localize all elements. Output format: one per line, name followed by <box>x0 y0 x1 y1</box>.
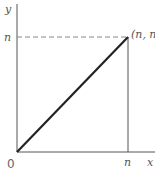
point-label: (n, n <box>131 28 155 41</box>
diagonal-diagram: y n (n, n 0 n x <box>0 0 155 177</box>
x-tick-label-n: n <box>124 156 131 169</box>
diagonal-line <box>17 37 128 152</box>
x-axis-label: x <box>147 156 154 169</box>
origin-label: 0 <box>7 157 15 171</box>
y-axis-label: y <box>4 3 12 16</box>
y-tick-label-n: n <box>4 31 11 44</box>
